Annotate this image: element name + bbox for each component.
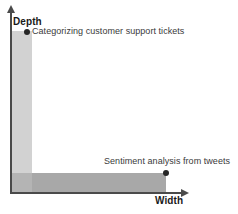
point-label-sentiment-analysis-from-tweets: Sentiment analysis from tweets <box>104 156 230 166</box>
x-axis-line <box>10 192 182 194</box>
filled-circle-marker <box>24 29 30 35</box>
diagram-canvas: Depth Width Categorizing customer suppor… <box>0 0 238 214</box>
width-band-region <box>12 173 166 193</box>
depth-band-region <box>12 31 32 193</box>
filled-circle-marker <box>163 170 169 176</box>
point-label-categorizing-customer-support-tickets: Categorizing customer support tickets <box>32 26 184 36</box>
band-overlap-region <box>12 173 32 193</box>
x-axis-title: Width <box>155 195 183 206</box>
y-axis-line <box>10 12 12 193</box>
arrow-up-icon <box>7 5 15 13</box>
